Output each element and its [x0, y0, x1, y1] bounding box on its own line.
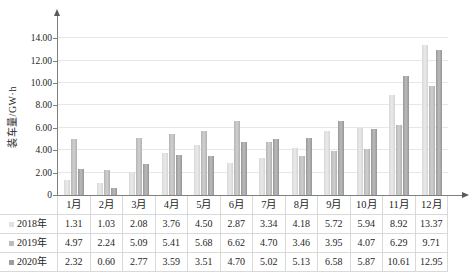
- y-axis-title: 装车量/GW·h: [4, 52, 18, 182]
- bar-2020年-3月: [143, 164, 149, 195]
- series-label-cell: 2018年: [0, 215, 58, 234]
- value-cell-2018年-1月: 1.31: [58, 215, 91, 234]
- value-cell-2019年-10月: 4.07: [351, 234, 384, 253]
- value-cell-2018年-4月: 3.76: [156, 215, 189, 234]
- legend-swatch-2020年: [9, 260, 14, 265]
- bar-2018年-12月: [422, 45, 428, 195]
- plot-area: [58, 0, 448, 195]
- data-table: 1月2月3月4月5月6月7月8月9月10月11月12月2018年1.311.03…: [0, 196, 448, 272]
- value-cell-2018年-6月: 2.87: [221, 215, 254, 234]
- month-header-cell: 7月: [253, 196, 286, 215]
- value-cell-2019年-3月: 5.09: [123, 234, 156, 253]
- value-cell-2020年-8月: 5.13: [286, 253, 319, 272]
- bar-2020年-2月: [111, 188, 117, 195]
- bar-2019年-12月: [429, 86, 435, 195]
- bar-2020年-4月: [176, 155, 182, 195]
- value-cell-2020年-2月: 0.60: [91, 253, 124, 272]
- month-header-cell: 10月: [351, 196, 384, 215]
- bar-2019年-3月: [136, 138, 142, 195]
- bar-2018年-8月: [292, 148, 298, 195]
- y-tick-label: 2.00: [8, 167, 52, 179]
- month-header-cell: 9月: [318, 196, 351, 215]
- gridline-12: [58, 60, 448, 61]
- month-header-cell: 6月: [221, 196, 254, 215]
- y-tick-label: 4.00: [8, 144, 52, 156]
- month-header-cell: 2月: [91, 196, 124, 215]
- month-header-cell: 12月: [416, 196, 449, 215]
- value-cell-2018年-8月: 4.18: [286, 215, 319, 234]
- table-corner-cell: [0, 196, 58, 215]
- bar-2018年-5月: [194, 145, 200, 195]
- bar-2020年-10月: [371, 129, 377, 195]
- value-cell-2019年-1月: 4.97: [58, 234, 91, 253]
- bar-2020年-5月: [208, 156, 214, 195]
- y-axis-line: [57, 16, 58, 195]
- legend-swatch-2019年: [9, 241, 14, 246]
- y-tick-label: 6.00: [8, 122, 52, 134]
- legend-swatch-2018年: [9, 222, 14, 227]
- bar-2019年-2月: [104, 170, 110, 195]
- value-cell-2018年-11月: 8.92: [383, 215, 416, 234]
- value-cell-2020年-11月: 10.61: [383, 253, 416, 272]
- value-cell-2020年-12月: 12.95: [416, 253, 449, 272]
- value-cell-2019年-6月: 6.62: [221, 234, 254, 253]
- bar-2019年-7月: [266, 142, 272, 195]
- value-cell-2020年-5月: 3.51: [188, 253, 221, 272]
- month-header-cell: 1月: [58, 196, 91, 215]
- month-header-cell: 4月: [156, 196, 189, 215]
- bar-2020年-11月: [403, 76, 409, 195]
- month-header-cell: 5月: [188, 196, 221, 215]
- value-cell-2020年-7月: 5.02: [253, 253, 286, 272]
- value-cell-2018年-7月: 3.34: [253, 215, 286, 234]
- value-cell-2019年-9月: 3.95: [318, 234, 351, 253]
- series-label-cell: 2019年: [0, 234, 58, 253]
- value-cell-2019年-7月: 4.70: [253, 234, 286, 253]
- bar-2019年-11月: [396, 125, 402, 195]
- value-cell-2018年-10月: 5.94: [351, 215, 384, 234]
- y-tick-label: 8.00: [8, 99, 52, 111]
- x-axis-arrow-icon: [462, 192, 469, 198]
- series-name: 2018年: [17, 219, 47, 229]
- bar-2019年-6月: [234, 121, 240, 195]
- value-cell-2018年-3月: 2.08: [123, 215, 156, 234]
- bar-2018年-2月: [97, 183, 103, 195]
- bar-chart-figure: 装车量/GW·h 14.0012.0010.008.006.004.002.00…: [0, 0, 472, 274]
- y-tick-label: 14.00: [8, 32, 52, 44]
- bar-2019年-9月: [331, 151, 337, 195]
- bar-2020年-1月: [78, 169, 84, 195]
- value-cell-2018年-9月: 5.72: [318, 215, 351, 234]
- bar-2019年-1月: [71, 139, 77, 195]
- value-cell-2020年-3月: 2.77: [123, 253, 156, 272]
- gridline-14: [58, 37, 448, 38]
- value-cell-2019年-4月: 5.41: [156, 234, 189, 253]
- bar-2018年-3月: [129, 172, 135, 195]
- value-cell-2019年-2月: 2.24: [91, 234, 124, 253]
- bar-2019年-5月: [201, 131, 207, 195]
- month-header-cell: 11月: [383, 196, 416, 215]
- bar-2019年-10月: [364, 149, 370, 195]
- y-axis-arrow-icon: [54, 9, 60, 16]
- value-cell-2018年-5月: 4.50: [188, 215, 221, 234]
- value-cell-2019年-8月: 3.46: [286, 234, 319, 253]
- series-name: 2019年: [17, 238, 47, 248]
- value-cell-2020年-10月: 5.87: [351, 253, 384, 272]
- bar-2019年-8月: [299, 156, 305, 195]
- y-tick-label: 10.00: [8, 77, 52, 89]
- series-label-cell: 2020年: [0, 253, 58, 272]
- bar-2018年-10月: [357, 128, 363, 195]
- value-cell-2018年-12月: 13.37: [416, 215, 449, 234]
- bar-2020年-6月: [241, 142, 247, 195]
- bar-2018年-6月: [227, 163, 233, 195]
- bar-2018年-7月: [259, 158, 265, 195]
- bar-2020年-9月: [338, 121, 344, 195]
- series-name: 2020年: [17, 257, 47, 267]
- bar-2018年-4月: [162, 153, 168, 195]
- y-tick-label: 12.00: [8, 55, 52, 67]
- bar-2020年-12月: [436, 50, 442, 195]
- bar-2020年-8月: [306, 138, 312, 195]
- value-cell-2018年-2月: 1.03: [91, 215, 124, 234]
- value-cell-2020年-4月: 3.59: [156, 253, 189, 272]
- bar-2019年-4月: [169, 134, 175, 195]
- bar-2020年-7月: [273, 139, 279, 195]
- bar-2018年-11月: [389, 95, 395, 195]
